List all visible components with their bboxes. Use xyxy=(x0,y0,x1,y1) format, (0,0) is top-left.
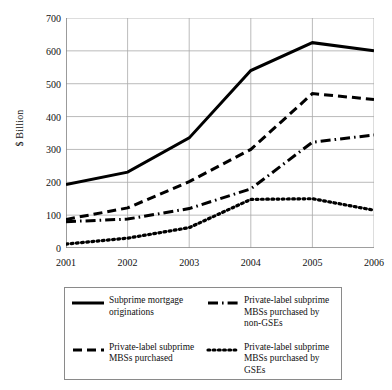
y-tick-label: 400 xyxy=(46,111,61,122)
legend-line-swatch xyxy=(71,297,105,309)
x-tick-label: 2005 xyxy=(302,257,322,268)
legend-entry: Private-label subprime MBSs purchased by… xyxy=(206,342,337,380)
series-line xyxy=(66,199,374,244)
series-line xyxy=(66,43,374,185)
legend-grid: Subprime mortgage originationsPrivate-la… xyxy=(65,288,341,379)
legend-label: Subprime mortgage originations xyxy=(109,295,202,318)
x-tick-label: 2003 xyxy=(179,257,199,268)
legend-entry: Private-label subprime MBSs purchased by… xyxy=(206,295,337,333)
x-tick-label: 2002 xyxy=(118,257,138,268)
y-tick-label: 500 xyxy=(46,78,61,89)
y-tick-label: 600 xyxy=(46,45,61,56)
x-tick-label: 2001 xyxy=(56,257,76,268)
legend-entry: Private-label subprime MBSs purchased xyxy=(71,342,202,380)
legend-entry: Subprime mortgage originations xyxy=(71,295,202,333)
legend-label: Private-label subprime MBSs purchased by… xyxy=(244,342,337,377)
y-tick-label: 200 xyxy=(46,177,61,188)
y-tick-label: 300 xyxy=(46,144,61,155)
y-tick-label: 100 xyxy=(46,210,61,221)
legend-label: Private-label subprime MBSs purchased xyxy=(109,342,202,365)
legend-label: Private-label subprime MBSs purchased by… xyxy=(244,295,337,330)
legend-line-swatch xyxy=(206,297,240,309)
x-tick-label: 2006 xyxy=(364,257,384,268)
x-tick-label: 2004 xyxy=(241,257,261,268)
chart-figure: $ Billion 010020030040050060070020012002… xyxy=(0,0,392,390)
y-tick-label: 0 xyxy=(56,243,61,254)
plot-area: 0100200300400500600700200120022003200420… xyxy=(66,18,374,248)
series-line xyxy=(66,135,374,222)
legend-line-swatch xyxy=(71,344,105,356)
y-tick-label: 700 xyxy=(46,13,61,24)
chart-legend: Subprime mortgage originationsPrivate-la… xyxy=(64,287,342,380)
y-axis-title: $ Billion xyxy=(12,0,28,258)
legend-line-swatch xyxy=(206,344,240,356)
chart-svg xyxy=(66,18,374,248)
